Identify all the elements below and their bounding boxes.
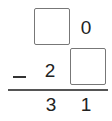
sum-line bbox=[8, 89, 108, 91]
difference-tens-digit: 3 bbox=[44, 95, 58, 114]
subtrahend-tens-digit: 2 bbox=[43, 61, 57, 80]
subtrahend-ones-input-box[interactable] bbox=[70, 48, 106, 85]
minuend-ones-digit: 0 bbox=[79, 18, 93, 37]
minuend-tens-input-box[interactable] bbox=[34, 8, 70, 45]
minus-sign bbox=[13, 76, 26, 78]
difference-ones-digit: 1 bbox=[79, 95, 93, 114]
